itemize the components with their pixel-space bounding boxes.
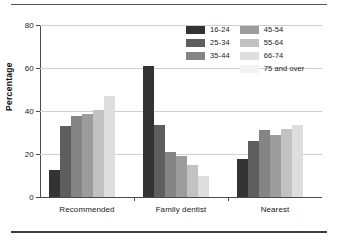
y-tick-label-80: 80 (25, 21, 34, 30)
legend-swatch-45-54 (240, 26, 259, 34)
bar-recommended-35-44 (71, 116, 82, 197)
y-tick-mark-60 (36, 68, 40, 69)
x-tick-mark-0 (134, 197, 135, 201)
legend-label-16-24: 16-24 (210, 25, 230, 34)
bar-nearest-55-64 (281, 129, 292, 197)
legend-item-25-34[interactable]: 25-34 (186, 38, 230, 47)
bar-group-0 (49, 25, 126, 197)
legend-swatch-75-and-over (240, 65, 259, 73)
y-tick-label-40: 40 (25, 107, 34, 116)
legend-item-66-74[interactable]: 66-74 (240, 51, 305, 60)
bar-family-dentist-66-74 (198, 176, 209, 198)
y-tick-mark-20 (36, 154, 40, 155)
legend-swatch-55-64 (240, 39, 259, 47)
legend-label-66-74: 66-74 (264, 51, 284, 60)
x-category-label-2: Nearest (261, 205, 290, 214)
bar-chart-figure: Percentage 020406080 16-2425-3435-44 45-… (0, 0, 338, 245)
legend-item-16-24[interactable]: 16-24 (186, 25, 230, 34)
x-category-label-1: Family dentist (156, 205, 207, 214)
bar-family-dentist-16-24 (143, 66, 154, 197)
legend-label-45-54: 45-54 (264, 25, 284, 34)
legend-item-75-and-over[interactable]: 75 and over (240, 64, 305, 73)
x-tick-mark-1 (228, 197, 229, 201)
legend-swatch-35-44 (186, 52, 205, 60)
bar-nearest-25-34 (248, 141, 259, 197)
x-category-label-0: Recommended (59, 205, 114, 214)
bar-family-dentist-45-54 (176, 156, 187, 197)
bar-nearest-66-74 (292, 125, 303, 197)
bar-recommended-25-34 (60, 126, 71, 197)
x-axis-line (40, 197, 322, 198)
legend-item-45-54[interactable]: 45-54 (240, 25, 305, 34)
y-tick-label-20: 20 (25, 150, 34, 159)
legend-label-25-34: 25-34 (210, 38, 230, 47)
legend-swatch-66-74 (240, 52, 259, 60)
bottom-rule (11, 231, 327, 233)
y-tick-label-0: 0 (29, 193, 34, 202)
chart-legend: 16-2425-3435-44 45-5455-6466-7475 and ov… (186, 25, 304, 73)
top-rule (11, 4, 327, 5)
bar-nearest-45-54 (270, 135, 281, 197)
y-axis-title: Percentage (4, 62, 14, 111)
y-tick-mark-40 (36, 111, 40, 112)
bar-recommended-66-74 (104, 96, 115, 197)
bar-recommended-16-24 (49, 170, 60, 197)
legend-column-right: 45-5455-6466-7475 and over (240, 25, 305, 73)
legend-label-55-64: 55-64 (264, 38, 284, 47)
bar-recommended-45-54 (82, 114, 93, 197)
bar-family-dentist-25-34 (154, 125, 165, 197)
bar-family-dentist-55-64 (187, 165, 198, 197)
legend-item-55-64[interactable]: 55-64 (240, 38, 305, 47)
bar-family-dentist-35-44 (165, 152, 176, 197)
legend-swatch-25-34 (186, 39, 205, 47)
legend-label-75-and-over: 75 and over (264, 64, 305, 73)
bar-nearest-35-44 (259, 130, 270, 197)
y-tick-mark-80 (36, 25, 40, 26)
bar-recommended-55-64 (93, 110, 104, 197)
bar-nearest-16-24 (237, 159, 248, 197)
legend-swatch-16-24 (186, 26, 205, 34)
legend-item-35-44[interactable]: 35-44 (186, 51, 230, 60)
legend-column-left: 16-2425-3435-44 (186, 25, 230, 73)
y-tick-mark-0 (36, 197, 40, 198)
y-tick-label-60: 60 (25, 64, 34, 73)
legend-label-35-44: 35-44 (210, 51, 230, 60)
